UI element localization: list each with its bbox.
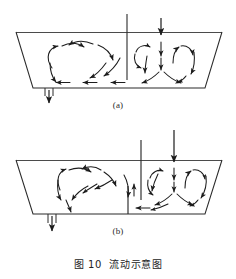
flow-b-right-loop: [185, 170, 206, 206]
flow-arc-a10: [145, 56, 147, 73]
flow-arc-b14: [190, 200, 198, 206]
flow-arc-a9: [134, 54, 141, 68]
flow-arc-a4: [98, 45, 113, 60]
flow-arc-b1: [58, 169, 66, 190]
flow-arc-b6: [72, 186, 88, 200]
flow-arc-b9: [66, 200, 71, 212]
flow-diagram-figure: (a) (b) 图 10 流动示意图: [0, 0, 236, 279]
flow-arc-b13: [201, 176, 206, 198]
flow-arc-a11: [173, 47, 179, 63]
flow-arc-a3: [69, 41, 93, 45]
flow-arc-b8: [95, 180, 112, 189]
panel-a-sublabel: (a): [0, 100, 236, 110]
flow-plume-b3: [155, 194, 172, 205]
flow-arc-a2: [62, 43, 84, 47]
flow-plume-a3: [142, 72, 159, 83]
flow-arc-b2: [69, 168, 91, 172]
panel-b-group: [16, 130, 222, 231]
flow-arc-b11: [185, 171, 191, 188]
flow-arc-a8: [136, 46, 150, 52]
flow-a-right-loop: [173, 46, 194, 82]
flow-a-inlet-plume: [142, 42, 181, 83]
flow-a-left-vortex: [48, 41, 120, 82]
flow-b-inlet-plume: [155, 168, 193, 205]
figure-caption: 图 10 流动示意图: [0, 256, 236, 271]
flow-b-left-fan: [58, 167, 129, 212]
flow-plume-b4: [177, 194, 193, 205]
flow-b-mid-column: [134, 170, 163, 196]
panel-b-sublabel: (b): [0, 226, 236, 236]
flow-b-floor-left: [136, 204, 168, 210]
flow-a-right-small-vortex: [134, 46, 150, 73]
flow-diagram-canvas: [0, 0, 236, 279]
flow-mid-b4: [152, 174, 158, 191]
flow-arc-a7: [104, 58, 120, 76]
flow-arc-a12: [181, 46, 193, 55]
flow-arc-a14: [178, 76, 186, 82]
flow-floor-b2: [151, 204, 168, 210]
flow-arc-b12: [193, 170, 205, 179]
flow-mid-b3: [148, 180, 153, 195]
panel-a-group: [16, 14, 222, 103]
